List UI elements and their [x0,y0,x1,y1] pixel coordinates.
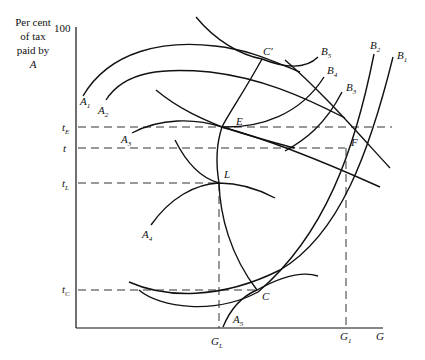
label-B3: B3 [346,81,357,96]
label-B5: B5 [321,45,332,60]
label-B1: B1 [397,49,407,64]
curve-B5 [196,17,318,66]
y-tick-tC: tC [62,283,70,298]
point-E: E [235,115,243,127]
y-tick-tL: tL [62,177,69,192]
y-tick-100: 100 [54,22,71,34]
label-A3: A3 [120,133,132,148]
point-C-prime: C′ [263,45,273,57]
y-tick-t: t [63,142,67,154]
curve-B-L [175,140,219,183]
label-B2: B2 [370,39,381,54]
point-F: F [350,136,358,148]
x-tick-labels: GL G1 G [211,330,384,350]
diagram: 100 tE t tL tC GL G1 G [0,0,425,360]
curve-A2-ext [156,90,380,187]
curve-A2 [106,70,345,118]
label-A2: A2 [97,104,109,119]
x-axis-label: G [376,330,384,342]
curve-B2 [139,54,374,307]
label-A1: A1 [79,95,90,110]
y-tick-tE: tE [62,121,70,136]
point-L: L [223,168,230,180]
guide-lines [78,127,392,328]
point-C: C [262,290,270,302]
label-B4: B4 [327,64,338,79]
curve-B3-upper [285,92,342,151]
curve-A3 [132,121,295,148]
curve-A4 [151,183,275,225]
label-A4: A4 [141,228,153,243]
label-A5: A5 [232,313,244,328]
x-tick-G1: G1 [340,330,351,345]
curves-A [83,44,345,327]
y-tick-labels: tE t tL tC [62,121,70,298]
x-tick-GL: GL [211,335,223,350]
